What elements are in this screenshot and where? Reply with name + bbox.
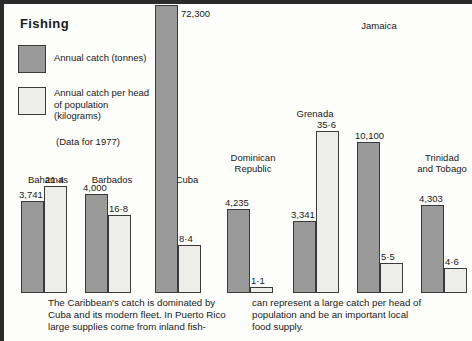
bar-value-annual-catch-0: 3,741 (19, 189, 43, 200)
bar-value-catch-per-head-1: 16·8 (109, 203, 128, 214)
caption-column-right: can represent a large catch per head of … (252, 297, 462, 341)
bar-catch-per-head-dominican-republic (250, 287, 273, 293)
panel-content: Fishing Annual catch (tonnes) Annual cat… (4, 4, 472, 341)
bar-catch-per-head-trinidad-and-tobago (444, 268, 467, 293)
bar-value-catch-per-head-0: 21·4 (45, 174, 64, 185)
bar-value-annual-catch-3: 4,235 (225, 197, 249, 208)
bar-value-catch-per-head-2: 8·4 (179, 233, 193, 244)
bar-value-annual-catch-4: 3,341 (291, 209, 315, 220)
bar-value-annual-catch-2: 72,300 (181, 8, 210, 19)
caption-column-left: The Caribbean's catch is dominated by Cu… (48, 297, 238, 341)
chart-caption: The Caribbean's catch is dominated by Cu… (4, 297, 472, 341)
bar-catch-per-head-jamaica (380, 263, 403, 293)
bar-group-label-trinidad-and-tobago: Trinidadand Tobago (408, 152, 472, 174)
bar-value-annual-catch-6: 4,303 (419, 193, 443, 204)
bar-annual-catch-bahamas (21, 201, 44, 293)
bar-annual-catch-trinidad-and-tobago (421, 205, 444, 293)
bar-group-label-jamaica: Jamaica (349, 20, 409, 31)
bar-annual-catch-grenada (293, 221, 316, 293)
bar-group-label-dominican-republic: DominicanRepublic (222, 152, 284, 174)
bar-value-catch-per-head-3: 1·1 (251, 275, 265, 286)
bar-value-annual-catch-1: 4,000 (83, 182, 107, 193)
bar-annual-catch-jamaica (357, 142, 380, 293)
bar-annual-catch-barbados (85, 194, 108, 293)
bar-chart-area: Bahamas3,74121·4Barbados4,00016·8Cuba72,… (4, 4, 472, 293)
bar-value-catch-per-head-6: 4·6 (445, 256, 459, 267)
bar-catch-per-head-bahamas (44, 186, 67, 293)
bar-group-label-grenada: Grenada (285, 108, 345, 119)
bar-catch-per-head-grenada (316, 131, 339, 293)
bar-catch-per-head-cuba (178, 245, 201, 293)
bar-annual-catch-cuba (155, 5, 178, 293)
bar-value-catch-per-head-4: 35·6 (317, 119, 336, 130)
bar-annual-catch-dominican-republic (227, 209, 250, 293)
bar-catch-per-head-barbados (108, 215, 131, 293)
bar-value-annual-catch-5: 10,100 (355, 130, 384, 141)
bar-value-catch-per-head-5: 5·5 (381, 251, 395, 262)
fishing-chart-panel: Fishing Annual catch (tonnes) Annual cat… (0, 0, 472, 341)
